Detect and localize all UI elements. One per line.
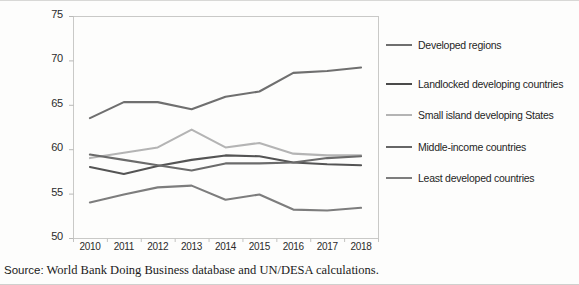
legend-item: Small island developing States: [386, 107, 554, 123]
x-axis-tick-label: 2012: [141, 241, 175, 252]
figure-container: 505560657075 201020112012201320142015201…: [0, 0, 579, 285]
legend-color-swatch: [386, 177, 412, 179]
axis-tick-marks: [69, 17, 379, 243]
legend-label: Least developed countries: [418, 172, 534, 184]
source-label: Source:: [4, 264, 44, 276]
y-axis-tick-label: 75: [37, 8, 63, 20]
y-axis-tick-label: 70: [37, 52, 63, 64]
legend-item: Least developed countries: [386, 170, 534, 186]
chart-area: 505560657075 201020112012201320142015201…: [0, 1, 579, 259]
x-axis-tick-label: 2016: [276, 241, 310, 252]
y-axis-tick-label: 60: [37, 141, 63, 153]
series-line: [90, 155, 361, 171]
x-axis-tick-label: 2013: [175, 241, 209, 252]
plot-frame: [74, 17, 379, 239]
x-axis-tick-label: 2018: [344, 241, 378, 252]
source-text: World Bank Doing Business database and U…: [47, 263, 379, 277]
legend-color-swatch: [386, 83, 412, 85]
series-line: [90, 130, 361, 158]
y-axis-tick-label: 65: [37, 97, 63, 109]
x-axis-tick-label: 2010: [73, 241, 107, 252]
series-line: [90, 68, 361, 119]
legend-color-swatch: [386, 114, 412, 116]
y-axis-tick-label: 55: [37, 186, 63, 198]
legend-item: Landlocked developing countries: [386, 76, 563, 92]
x-axis-tick-label: 2015: [242, 241, 276, 252]
x-axis-tick-label: 2011: [107, 241, 141, 252]
legend-color-swatch: [386, 146, 412, 148]
legend-label: Small island developing States: [418, 109, 554, 121]
legend-label: Middle-income countries: [418, 141, 526, 153]
legend-label: Developed regions: [418, 39, 501, 51]
x-axis-tick-label: 2014: [209, 241, 243, 252]
legend-color-swatch: [386, 44, 412, 46]
legend-item: Middle-income countries: [386, 139, 526, 155]
legend-label: Landlocked developing countries: [418, 78, 563, 90]
source-note: Source: World Bank Doing Business databa…: [4, 263, 379, 278]
legend-item: Developed regions: [386, 37, 501, 53]
series-layer: [90, 68, 361, 211]
series-line: [90, 186, 361, 211]
x-axis-tick-label: 2017: [310, 241, 344, 252]
y-axis-tick-label: 50: [37, 230, 63, 242]
